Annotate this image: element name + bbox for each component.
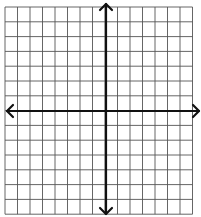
axes (7, 4, 199, 214)
coordinate-plane (0, 0, 201, 217)
